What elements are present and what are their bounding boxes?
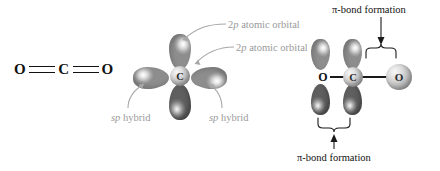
label-pi-bond-formation-top: π-bond formation: [332, 4, 406, 16]
lewis-carbon: C: [58, 62, 69, 77]
leader-line-2p-bottom: [195, 47, 234, 64]
p-orbital-lobe-up: [169, 34, 191, 70]
label-2p-atomic-orbital-bottom: 2p atomic orbital: [236, 42, 308, 54]
label-sp-hybrid-left: sp hybrid: [111, 112, 150, 124]
brace-top-pi-bond: [366, 44, 396, 58]
left-oxygen-p-lobe-up: [311, 39, 330, 70]
arrow-head-top-pi-bond: [378, 37, 385, 45]
label-pi-bond-formation-bottom: π-bond formation: [297, 152, 371, 164]
label-2p-atomic-orbital-top: 2p atomic orbital: [228, 19, 300, 31]
label-sp-hybrid-right: sp hybrid: [209, 112, 248, 124]
lewis-left-oxygen: O: [14, 62, 26, 77]
leader-line-2p-top: [183, 24, 226, 40]
pi-carbon-atom: C: [343, 67, 363, 87]
lewis-structure-panel: O C O: [14, 62, 114, 77]
pi-right-oxygen-atom: O: [386, 64, 412, 90]
lewis-double-bond-right: [73, 66, 99, 73]
brace-bottom-pi-bond: [318, 118, 350, 132]
lewis-right-oxygen: O: [102, 62, 114, 77]
sp-hybrid-lobe-left: [133, 67, 169, 89]
carbon-p-lobe-up: [343, 39, 362, 70]
p-orbital-lobe-down: [169, 84, 191, 120]
sp-hybrid-lobe-right: [191, 67, 227, 89]
lewis-double-bond-left: [29, 66, 55, 73]
co2-bonding-figure: O C O C 2p atomic orbital 2p atomic orbi…: [0, 0, 440, 171]
arrow-head-bottom-pi-bond: [331, 134, 338, 142]
hybrid-carbon-atom: C: [170, 66, 190, 86]
bond-carbon-right-oxygen: [362, 76, 388, 78]
left-oxygen-p-lobe-down: [311, 84, 330, 115]
pi-left-oxygen-atom: O: [313, 67, 333, 87]
leader-arrow-2p-bottom: [195, 60, 201, 66]
carbon-p-lobe-down: [343, 84, 362, 115]
